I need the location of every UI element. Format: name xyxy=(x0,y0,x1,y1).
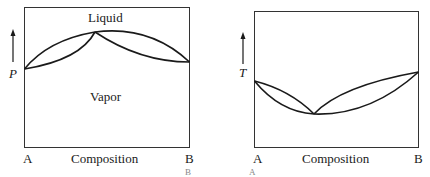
left-arrowhead-icon xyxy=(11,29,16,36)
caption-left: B xyxy=(185,168,191,177)
left-frame xyxy=(25,8,190,148)
caption-right: A xyxy=(249,168,256,177)
left-phase-diagram xyxy=(11,8,190,148)
left-a-label: A xyxy=(23,152,32,165)
left-vapor-region-label: Vapor xyxy=(90,90,121,103)
left-p-axis-label: P xyxy=(9,67,17,80)
right-a-label: A xyxy=(253,152,262,165)
left-vapor-curve-a xyxy=(25,32,96,69)
right-arrowhead-icon xyxy=(241,32,246,39)
right-liquid-curve-b xyxy=(314,72,419,114)
right-frame xyxy=(255,12,419,148)
left-b-label: B xyxy=(185,152,194,165)
left-composition-label: Composition xyxy=(71,152,138,165)
right-b-label: B xyxy=(414,152,423,165)
right-liquid-curve-a xyxy=(255,81,315,114)
left-liquid-region-label: Liquid xyxy=(88,11,123,24)
right-t-axis-label: T xyxy=(239,66,246,79)
right-vapor-curve-a xyxy=(255,81,315,114)
left-liquid-curve-a xyxy=(25,32,96,69)
left-liquid-curve-b xyxy=(95,31,190,62)
right-phase-diagram xyxy=(241,12,419,148)
right-composition-label: Composition xyxy=(302,152,369,165)
right-vapor-curve-b xyxy=(314,72,419,114)
left-vapor-curve-b xyxy=(95,32,190,62)
